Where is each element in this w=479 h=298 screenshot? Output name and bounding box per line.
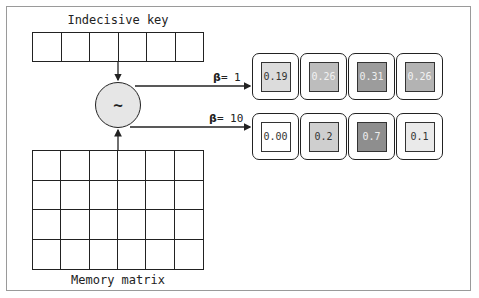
weight-cell: 0.7 xyxy=(357,122,387,152)
weight-box: 0.1 xyxy=(396,113,443,160)
matrix-cell xyxy=(61,210,89,240)
output-weights-beta-1: 0.19 0.26 0.31 0.26 xyxy=(252,53,444,100)
matrix-cell xyxy=(175,210,203,240)
matrix-cell xyxy=(118,181,146,211)
matrix-cell xyxy=(146,210,174,240)
matrix-cell xyxy=(175,181,203,211)
matrix-cell xyxy=(33,210,61,240)
tilde-icon: ~ xyxy=(113,96,123,115)
matrix-cell xyxy=(61,151,89,181)
matrix-cell xyxy=(175,240,203,270)
matrix-cell xyxy=(61,240,89,270)
weight-box: 0.19 xyxy=(252,53,299,100)
weight-cell: 0.1 xyxy=(405,122,435,152)
matrix-cell xyxy=(90,240,118,270)
matrix-cell xyxy=(90,181,118,211)
weight-box: 0.7 xyxy=(348,113,395,160)
matrix-cell xyxy=(90,151,118,181)
beta-label-1: β= 1 xyxy=(213,71,241,84)
weight-box: 0.2 xyxy=(300,113,347,160)
matrix-cell xyxy=(118,151,146,181)
matrix-cell xyxy=(90,210,118,240)
matrix-cell xyxy=(118,210,146,240)
matrix-cell xyxy=(146,181,174,211)
similarity-node: ~ xyxy=(95,82,141,128)
beta-label-10: β= 10 xyxy=(209,112,243,125)
weight-box: 0.26 xyxy=(300,53,347,100)
weight-cell: 0.00 xyxy=(261,122,291,152)
matrix-title: Memory matrix xyxy=(32,273,204,287)
matrix-cell xyxy=(146,240,174,270)
weight-cell: 0.2 xyxy=(309,122,339,152)
matrix-cell xyxy=(118,240,146,270)
matrix-cell xyxy=(61,181,89,211)
weight-box: 0.31 xyxy=(348,53,395,100)
matrix-cell xyxy=(33,240,61,270)
weight-cell: 0.19 xyxy=(261,62,291,92)
weight-cell: 0.26 xyxy=(309,62,339,92)
weight-cell: 0.31 xyxy=(357,62,387,92)
matrix-cell xyxy=(33,181,61,211)
weight-box: 0.00 xyxy=(252,113,299,160)
weight-box: 0.26 xyxy=(396,53,443,100)
weight-cell: 0.26 xyxy=(405,62,435,92)
matrix-cell xyxy=(175,151,203,181)
output-weights-beta-10: 0.00 0.2 0.7 0.1 xyxy=(252,113,444,160)
matrix-cell xyxy=(33,151,61,181)
memory-matrix xyxy=(32,150,204,270)
matrix-cell xyxy=(146,151,174,181)
